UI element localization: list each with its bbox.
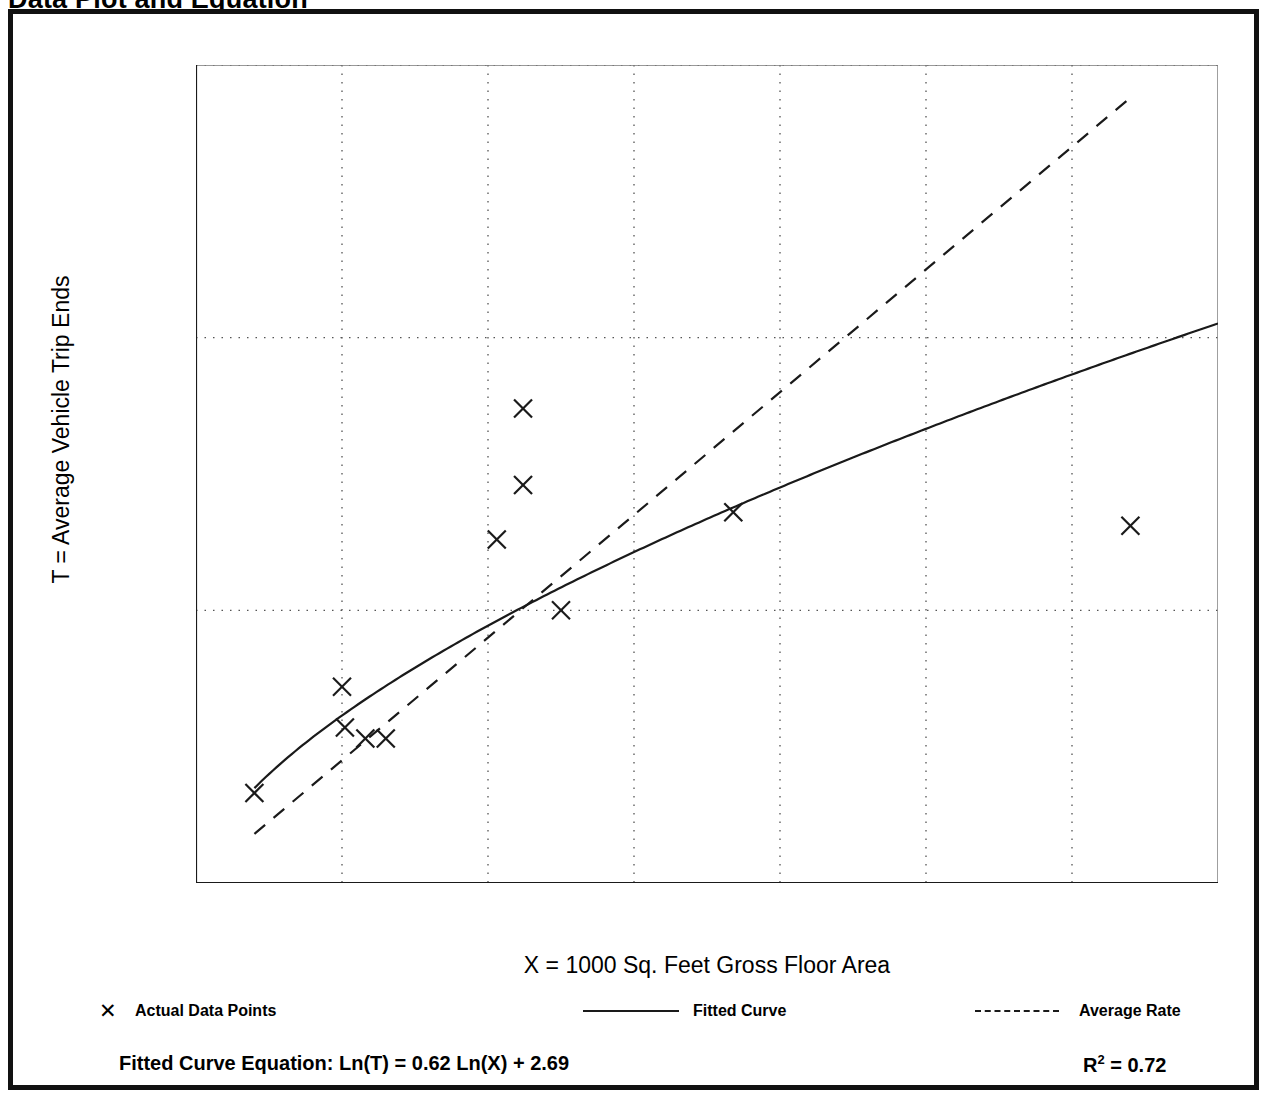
fitted-curve-line — [254, 323, 1218, 788]
dashed-line-icon — [969, 1003, 1065, 1019]
legend-item-fitted-curve: Fitted Curve — [583, 1002, 786, 1020]
data-point-marker — [377, 729, 395, 747]
data-point-marker — [514, 400, 532, 418]
solid-line-icon — [583, 1003, 679, 1019]
r-squared-value: R2 = 0.72 — [1083, 1052, 1166, 1077]
x-axis-title: X = 1000 Sq. Feet Gross Floor Area — [196, 952, 1218, 979]
chart-legend: ✕ Actual Data Points Fitted Curve Averag… — [83, 1000, 1243, 1034]
legend-label: Actual Data Points — [135, 1002, 276, 1020]
data-point-marker — [488, 530, 506, 548]
legend-label: Fitted Curve — [693, 1002, 786, 1020]
marker-x-icon: ✕ — [95, 1003, 121, 1019]
scatter-plot: 0102030405060700100200300 — [196, 65, 1218, 883]
plot-area: 0102030405060700100200300 — [196, 65, 1218, 883]
legend-label: Average Rate — [1079, 1002, 1181, 1020]
legend-item-actual-data-points: ✕ Actual Data Points — [95, 1002, 276, 1020]
data-point-marker — [336, 719, 354, 737]
figure-frame: T = Average Vehicle Trip Ends X = 1000 S… — [8, 9, 1259, 1090]
legend-item-average-rate: Average Rate — [969, 1002, 1181, 1020]
r-squared-exponent: 2 — [1097, 1052, 1104, 1067]
average-rate-line — [254, 98, 1130, 834]
fitted-curve-equation: Fitted Curve Equation: Ln(T) = 0.62 Ln(X… — [119, 1052, 569, 1075]
y-axis-title: T = Average Vehicle Trip Ends — [48, 130, 75, 730]
data-point-marker — [356, 729, 374, 747]
data-point-marker — [333, 678, 351, 696]
r-squared-symbol: R — [1083, 1054, 1097, 1076]
data-point-marker — [552, 601, 570, 619]
equation-row: Fitted Curve Equation: Ln(T) = 0.62 Ln(X… — [83, 1052, 1243, 1086]
r-squared-number: = 0.72 — [1105, 1054, 1167, 1076]
figure-canvas: T = Average Vehicle Trip Ends X = 1000 S… — [13, 14, 1254, 1085]
data-point-marker — [724, 503, 742, 521]
data-point-marker — [514, 476, 532, 494]
data-point-marker — [1121, 517, 1139, 535]
